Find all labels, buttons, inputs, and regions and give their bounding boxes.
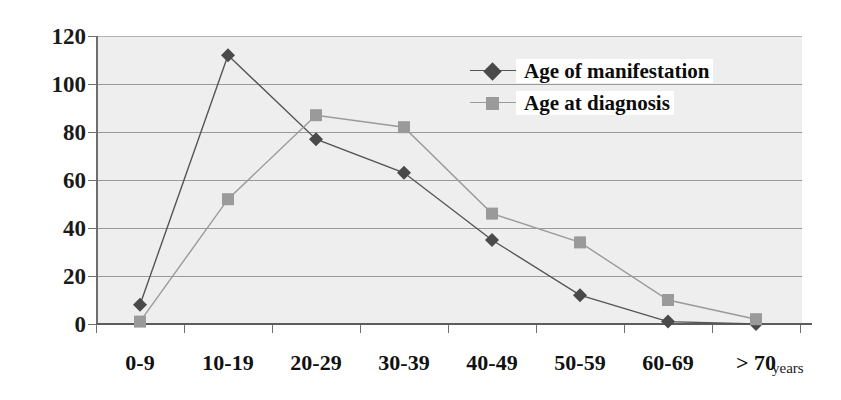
x-axis-tick-labels: 0-910-1920-2930-3940-4950-5960-69> 70 — [0, 352, 841, 382]
legend-label-age-of-manifestation: Age of manifestation — [516, 59, 713, 83]
x-axis-unit-label: years — [772, 360, 804, 377]
legend-item-age-at-diagnosis: Age at diagnosis — [470, 90, 713, 116]
gridline-120 — [98, 36, 802, 37]
x-tick-mark-1 — [184, 325, 185, 333]
y-axis-tick-labels: 020406080100120 — [14, 0, 86, 400]
y-tick-mark-20 — [88, 276, 97, 277]
gridline-20 — [98, 276, 802, 277]
x-tick-mark-2 — [272, 325, 273, 333]
x-tick-label-5: 50-59 — [554, 352, 605, 374]
x-tick-mark-3 — [360, 325, 361, 333]
y-tick-label-100: 100 — [52, 73, 87, 96]
gridline-60 — [98, 180, 802, 181]
x-tick-label-1: 10-19 — [202, 352, 253, 374]
chart-legend: Age of manifestation Age at diagnosis — [470, 58, 713, 116]
x-tick-label-7: > 70 — [736, 352, 776, 374]
y-tick-label-60: 60 — [63, 169, 86, 192]
x-tick-mark-0 — [96, 325, 97, 333]
y-tick-label-20: 20 — [63, 265, 86, 288]
x-tick-label-0: 0-9 — [125, 352, 154, 374]
x-tick-mark-8 — [800, 325, 801, 333]
y-tick-mark-120 — [88, 36, 97, 37]
y-tick-label-120: 120 — [52, 25, 87, 48]
x-tick-mark-7 — [712, 325, 713, 333]
y-tick-label-80: 80 — [63, 121, 86, 144]
legend-marker-square-icon — [470, 93, 516, 113]
y-tick-mark-80 — [88, 132, 97, 133]
y-tick-mark-60 — [88, 180, 97, 181]
x-tick-label-6: 60-69 — [642, 352, 693, 374]
x-tick-mark-5 — [536, 325, 537, 333]
gridline-40 — [98, 228, 802, 229]
legend-marker-diamond-icon — [470, 61, 516, 81]
y-tick-label-0: 0 — [75, 313, 87, 336]
gridline-80 — [98, 132, 802, 133]
legend-item-age-of-manifestation: Age of manifestation — [470, 58, 713, 84]
y-tick-mark-100 — [88, 84, 97, 85]
x-tick-mark-4 — [448, 325, 449, 333]
y-tick-mark-40 — [88, 228, 97, 229]
x-tick-label-3: 30-39 — [378, 352, 429, 374]
legend-label-age-at-diagnosis: Age at diagnosis — [516, 91, 674, 115]
x-axis-line — [96, 323, 812, 325]
x-tick-label-4: 40-49 — [466, 352, 517, 374]
x-tick-mark-6 — [624, 325, 625, 333]
y-tick-label-40: 40 — [63, 217, 86, 240]
x-tick-label-2: 20-29 — [290, 352, 341, 374]
chart-figure: 020406080100120 0-910-1920-2930-3940-495… — [0, 0, 841, 400]
